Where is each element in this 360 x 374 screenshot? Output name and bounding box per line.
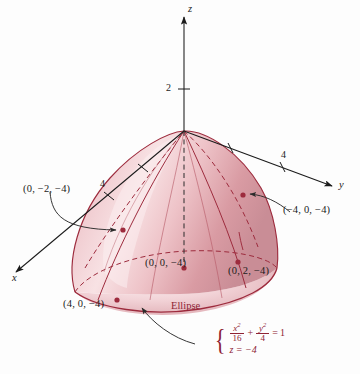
ellipse-title: Ellipse	[171, 300, 200, 311]
dot-4-0-neg4	[114, 297, 119, 302]
x-axis-label: x	[12, 272, 17, 283]
denominator-4: 4	[257, 334, 268, 343]
point-label-0-2-neg4: (0, 2, −4)	[228, 265, 269, 276]
point-label-0-neg2-neg4: (0, −2, −4)	[23, 183, 70, 194]
equation-line-1: x2 16 + y2 4 = 1	[228, 322, 285, 343]
z-axis-label: z	[188, 3, 192, 14]
z-axis-tick-label: 2	[166, 82, 171, 93]
fraction-x-squared-over-16: x2 16	[229, 322, 244, 343]
equation-brace: {	[215, 324, 226, 354]
plus-operator: +	[247, 327, 253, 338]
point-label-0-0-neg4: (0, 0, −4)	[145, 257, 186, 268]
equation-rhs: 1	[280, 327, 285, 338]
y-axis-tick-label: 4	[281, 149, 286, 160]
paraboloid-surface	[72, 131, 278, 315]
point-label-neg4-0-neg4: (−4, 0, −4)	[283, 204, 330, 215]
dot-0-2-neg4	[235, 259, 240, 264]
y-axis-label: y	[339, 179, 344, 190]
dot-0-neg2-neg4	[120, 227, 125, 232]
figure-canvas: z 2 y 4 x 4 (0, −2, −4) (−4, 0, −4) (0, …	[0, 0, 360, 374]
fraction-y-squared-over-4: y2 4	[256, 322, 269, 343]
dot-neg4-0-neg4	[240, 192, 245, 197]
denominator-16: 16	[229, 334, 244, 343]
equals-operator: =	[272, 327, 278, 338]
point-label-4-0-neg4: (4, 0, −4)	[63, 298, 104, 309]
ellipse-equation: { x2 16 + y2 4 = 1 z = −4	[213, 322, 285, 355]
x-axis-tick-label: 4	[100, 178, 105, 189]
equation-line-2: z = −4	[228, 344, 285, 355]
